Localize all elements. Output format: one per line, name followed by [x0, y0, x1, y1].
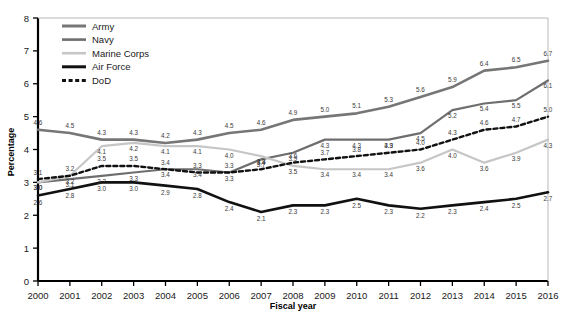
data-point-label: 4.1	[161, 148, 170, 155]
data-point-label: 2.1	[257, 215, 266, 222]
data-point-label: 5.1	[352, 102, 361, 109]
data-point-label: 4.5	[225, 122, 234, 129]
x-axis-title: Fiscal year	[270, 301, 317, 311]
data-point-label: 4.7	[512, 116, 521, 123]
data-point-label: 5.5	[512, 102, 521, 109]
data-point-label: 3.5	[97, 155, 106, 162]
data-point-label: 4.0	[416, 139, 425, 146]
chart-figure: 0123456782000200120022003200420052006200…	[0, 0, 566, 333]
data-point-label: 6.1	[544, 82, 553, 89]
data-point-label: 3.3	[193, 162, 202, 169]
legend-label-marine-corps: Marine Corps	[92, 48, 149, 59]
data-point-label: 4.2	[161, 132, 170, 139]
x-tick-label: 2001	[59, 290, 80, 301]
data-point-label: 3.3	[129, 175, 138, 182]
data-point-label: 3.4	[257, 159, 266, 166]
data-point-label: 2.8	[65, 192, 74, 199]
x-tick-label: 2007	[251, 290, 272, 301]
y-tick-label: 8	[24, 13, 29, 24]
data-point-label: 2.8	[193, 192, 202, 199]
data-point-label: 4.0	[225, 152, 234, 159]
data-point-label: 5.3	[384, 96, 393, 103]
data-point-label: 3.3	[225, 175, 234, 182]
data-point-label: 5.6	[416, 86, 425, 93]
data-point-label: 4.1	[97, 148, 106, 155]
data-point-label: 4.6	[34, 119, 43, 126]
x-tick-label: 2008	[282, 290, 303, 301]
data-point-label: 2.4	[480, 205, 489, 212]
line-chart-canvas: 0123456782000200120022003200420052006200…	[0, 0, 566, 333]
x-tick-label: 2009	[314, 290, 335, 301]
x-tick-label: 2000	[27, 290, 48, 301]
y-tick-label: 3	[24, 177, 29, 188]
data-point-label: 2.5	[512, 202, 521, 209]
x-tick-label: 2011	[378, 290, 398, 301]
x-tick-label: 2015	[506, 290, 527, 301]
data-point-label: 4.6	[257, 119, 266, 126]
data-point-label: 4.9	[289, 109, 298, 116]
data-point-label: 5.2	[448, 112, 457, 119]
data-point-label: 3.6	[480, 165, 489, 172]
data-point-label: 2.5	[352, 202, 361, 209]
data-point-label: 6.4	[480, 60, 489, 67]
data-point-label: 3.0	[129, 185, 138, 192]
data-point-label: 2.6	[34, 199, 43, 206]
data-point-label: 4.3	[448, 129, 457, 136]
data-point-label: 3.3	[225, 162, 234, 169]
x-tick-label: 2012	[410, 290, 431, 301]
y-tick-label: 5	[24, 111, 29, 122]
data-point-label: 3.4	[320, 171, 329, 178]
data-point-label: 3.2	[65, 165, 74, 172]
x-tick-label: 2004	[155, 290, 176, 301]
data-point-label: 5.4	[480, 105, 489, 112]
data-point-label: 4.3	[193, 129, 202, 136]
data-point-label: 4.3	[129, 129, 138, 136]
data-point-label: 3.4	[161, 159, 170, 166]
data-point-label: 3.8	[352, 146, 361, 153]
x-tick-label: 2010	[346, 290, 367, 301]
y-tick-label: 2	[24, 210, 29, 221]
x-tick-label: 2002	[91, 290, 112, 301]
y-tick-label: 1	[24, 243, 29, 254]
data-point-label: 4.3	[97, 129, 106, 136]
data-point-label: 3.4	[193, 171, 202, 178]
data-point-label: 4.2	[129, 145, 138, 152]
y-axis-title: Percentage	[6, 128, 16, 177]
y-tick-label: 0	[24, 276, 29, 287]
data-point-label: 3.6	[289, 152, 298, 159]
legend-label-air-force: Air Force	[92, 61, 131, 72]
x-tick-label: 2016	[537, 290, 558, 301]
data-point-label: 3.2	[65, 178, 74, 185]
data-point-label: 4.3	[544, 142, 553, 149]
series-line-army	[38, 61, 548, 143]
data-point-label: 5.0	[320, 106, 329, 113]
data-point-label: 3.2	[97, 178, 106, 185]
data-point-label: 2.3	[384, 208, 393, 215]
data-point-label: 2.4	[225, 205, 234, 212]
data-point-label: 3.6	[416, 165, 425, 172]
y-tick-label: 7	[24, 45, 29, 56]
data-point-label: 2.2	[416, 212, 425, 219]
data-point-label: 2.9	[161, 189, 170, 196]
data-point-label: 2.7	[544, 195, 553, 202]
y-tick-label: 6	[24, 78, 29, 89]
y-tick-label: 4	[24, 144, 29, 155]
data-point-label: 4.6	[480, 119, 489, 126]
x-tick-label: 2003	[123, 290, 144, 301]
data-point-label: 3.7	[320, 149, 329, 156]
data-point-label: 5.0	[544, 106, 553, 113]
data-point-label: 3.4	[161, 171, 170, 178]
data-point-label: 2.3	[448, 208, 457, 215]
data-point-label: 3.1	[34, 169, 43, 176]
data-point-label: 3.4	[384, 171, 393, 178]
x-tick-label: 2014	[474, 290, 495, 301]
data-point-label: 3.0	[97, 185, 106, 192]
data-point-label: 3.9	[512, 155, 521, 162]
data-point-label: 4.5	[65, 122, 74, 129]
data-point-label: 3.4	[352, 171, 361, 178]
data-point-label: 3.5	[289, 168, 298, 175]
data-point-label: 6.5	[512, 56, 521, 63]
data-point-label: 3.5	[129, 155, 138, 162]
legend-label-navy: Navy	[92, 34, 114, 45]
legend-label-dod: DoD	[92, 75, 111, 86]
